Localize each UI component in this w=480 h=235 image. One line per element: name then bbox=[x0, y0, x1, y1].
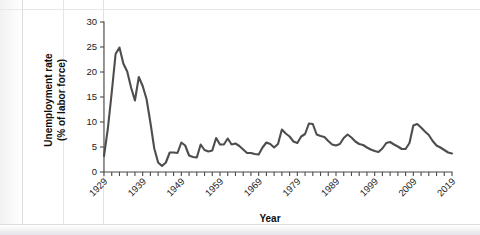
x-tick-label: 1949 bbox=[164, 176, 187, 199]
y-axis-ticks bbox=[100, 22, 104, 172]
x-tick-label: 1969 bbox=[241, 176, 264, 199]
y-axis-title-line2: (% of labor force) bbox=[56, 59, 67, 141]
chart-canvas: Unemployment rate (% of labor force) 051… bbox=[0, 0, 480, 235]
unemployment-rate-series bbox=[104, 48, 452, 167]
y-tick-label: 0 bbox=[92, 166, 97, 177]
y-axis-title-line1: Unemployment rate bbox=[43, 53, 54, 147]
x-tick-label: 2019 bbox=[435, 176, 458, 199]
chart-axes bbox=[104, 22, 452, 172]
x-tick-label: 1959 bbox=[203, 176, 226, 199]
y-tick-label: 5 bbox=[92, 141, 97, 152]
x-tick-label: 1929 bbox=[87, 176, 110, 199]
y-axis-title: Unemployment rate (% of labor force) bbox=[43, 53, 67, 147]
x-tick-label: 2009 bbox=[396, 176, 419, 199]
x-tick-label: 1999 bbox=[357, 176, 380, 199]
y-tick-label: 10 bbox=[86, 116, 97, 127]
y-tick-label: 20 bbox=[86, 66, 97, 77]
y-tick-label: 25 bbox=[86, 41, 97, 52]
y-axis-tick-labels: 051015202530 bbox=[86, 16, 97, 177]
x-tick-label: 1989 bbox=[319, 176, 342, 199]
x-tick-label: 1979 bbox=[280, 176, 303, 199]
x-tick-label: 1939 bbox=[125, 176, 148, 199]
x-axis-title: Year bbox=[259, 213, 280, 224]
unemployment-rate-chart: Unemployment rate (% of labor force) 051… bbox=[0, 0, 480, 235]
x-axis-ticks bbox=[104, 172, 452, 176]
y-tick-label: 30 bbox=[86, 16, 97, 27]
x-axis-tick-labels: 1929193919491959196919791989199920092019 bbox=[87, 176, 458, 199]
y-tick-label: 15 bbox=[86, 91, 97, 102]
